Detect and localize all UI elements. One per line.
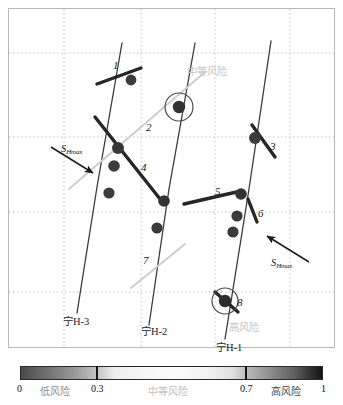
stress-subscript: Hmax bbox=[276, 262, 292, 270]
stress-label-right: SHmax bbox=[271, 257, 292, 270]
annotation-medium-risk: 中等风险 bbox=[187, 63, 227, 78]
fault-number-8: 8 bbox=[237, 296, 243, 308]
fault-number-6: 6 bbox=[258, 207, 264, 219]
fault-number-3: 3 bbox=[270, 140, 276, 152]
colorbar-max-label: 1 bbox=[321, 383, 326, 394]
well-label-ningh2: 宁H-2 bbox=[141, 323, 167, 338]
stress-arrows bbox=[51, 147, 309, 262]
colorbar-tick-label-0-7: 0.7 bbox=[240, 383, 253, 394]
event-dot bbox=[227, 226, 238, 237]
colorbar-category-high: 高风险 bbox=[271, 383, 301, 398]
colorbar-tick-label-0-3: 0.3 bbox=[91, 383, 104, 394]
fault-number-4: 4 bbox=[141, 161, 147, 173]
fault-6 bbox=[248, 199, 257, 222]
fault-number-2: 2 bbox=[146, 121, 152, 133]
medium-risk-boundary-lower bbox=[131, 244, 185, 288]
event-dot bbox=[112, 142, 124, 154]
fault-5 bbox=[184, 191, 241, 204]
colorbar-min-label: 0 bbox=[17, 383, 22, 394]
colorbar-gradient bbox=[20, 366, 323, 380]
stress-subscript: Hmax bbox=[66, 148, 82, 156]
well-label-ningh3: 宁H-3 bbox=[63, 313, 89, 328]
fault-number-5: 5 bbox=[215, 185, 221, 197]
well-path-ningh1 bbox=[225, 41, 271, 339]
colorbar-category-medium: 中等风险 bbox=[148, 383, 188, 398]
fault-number-1: 1 bbox=[113, 59, 119, 71]
event-dot bbox=[231, 210, 242, 221]
event-dot bbox=[173, 101, 185, 113]
well-path-ningh2 bbox=[149, 43, 195, 325]
colorbar-legend: 0 0.3 0.7 1 低风险 中等风险 高风险 bbox=[8, 366, 335, 401]
figure-root: 1 2 3 4 5 6 7 8 宁H-3 宁H-2 宁H-1 中等风险 高风险 … bbox=[0, 0, 343, 405]
event-dots bbox=[103, 75, 261, 308]
event-dot bbox=[126, 75, 137, 86]
well-label-ningh1: 宁H-1 bbox=[216, 339, 242, 354]
event-dot bbox=[103, 187, 114, 198]
event-dot bbox=[151, 222, 162, 233]
fault-segments bbox=[95, 68, 275, 312]
plot-canvas bbox=[9, 9, 334, 347]
event-dot bbox=[219, 295, 231, 307]
fault-number-7: 7 bbox=[143, 254, 149, 266]
event-dot bbox=[249, 132, 261, 144]
colorbar-tick-0-3 bbox=[96, 366, 98, 380]
event-dot bbox=[108, 160, 120, 172]
stress-label-left: SHmax bbox=[61, 143, 82, 156]
annotation-high-risk: 高风险 bbox=[229, 319, 259, 334]
plot-frame: 1 2 3 4 5 6 7 8 宁H-3 宁H-2 宁H-1 中等风险 高风险 … bbox=[8, 8, 335, 348]
highlight-circles bbox=[165, 93, 238, 314]
event-dot bbox=[158, 195, 170, 207]
colorbar-category-low: 低风险 bbox=[40, 383, 70, 398]
colorbar-tick-0-7 bbox=[245, 366, 247, 380]
event-dot bbox=[235, 188, 247, 200]
